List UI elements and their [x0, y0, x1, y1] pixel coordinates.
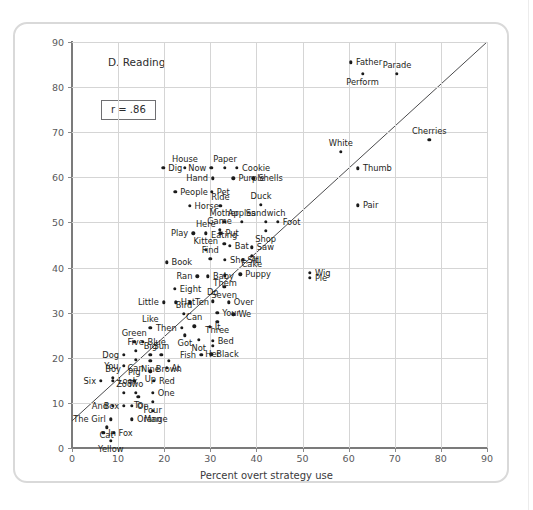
scatter-point-label: We — [238, 310, 251, 318]
x-tick-label: 90 — [481, 453, 493, 464]
y-tick-label: 70 — [52, 127, 64, 138]
x-tick-label: 0 — [69, 453, 75, 464]
x-tick-mark — [210, 448, 211, 452]
x-tick-mark — [441, 448, 442, 452]
scatter-point-label: Dig — [168, 164, 182, 172]
scatter-point-label: Little — [138, 298, 159, 306]
scatter-point-label: Cookie — [242, 164, 270, 172]
x-tick-mark — [395, 448, 396, 452]
scatter-point-label: Eight — [180, 285, 201, 293]
y-tick-mark — [68, 448, 72, 449]
scatter-point-label: Play — [171, 229, 188, 237]
scatter-point-label: Foot — [283, 217, 301, 225]
scatter-point-label: Duck — [251, 192, 272, 200]
scatter-point-label: Over — [234, 298, 254, 306]
scatter-point-label: Hand — [186, 174, 208, 182]
scatter-point-label: Bat — [235, 242, 249, 250]
y-tick-label: 20 — [52, 352, 64, 363]
y-tick-label: 30 — [52, 307, 64, 318]
scatter-point-label: Do — [207, 288, 218, 296]
scatter-point-label: Sandwich — [246, 208, 286, 216]
scatter-point-label: One — [158, 389, 175, 397]
y-gridline — [72, 87, 487, 88]
scatter-plot-area: 01020304050607080900102030405060708090Fa… — [72, 42, 487, 448]
x-tick-label: 40 — [250, 453, 262, 464]
scatter-point-label: Ride — [211, 192, 229, 200]
x-tick-label: 80 — [435, 453, 447, 464]
scatter-point-label: It — [215, 322, 221, 330]
scatter-point-label: People — [180, 188, 208, 196]
x-tick-label: 20 — [158, 453, 170, 464]
x-tick-mark — [72, 448, 73, 452]
scatter-point-label: Ran — [176, 272, 192, 280]
x-tick-mark — [164, 448, 165, 452]
y-tick-label: 60 — [52, 172, 64, 183]
x-gridline — [395, 42, 396, 448]
y-gridline — [72, 42, 487, 43]
scatter-point-label: Five — [127, 338, 144, 346]
y-tick-label: 80 — [52, 82, 64, 93]
scatter-point-label: Sit — [248, 256, 259, 264]
scatter-point-label: Perform — [346, 78, 379, 86]
page-right-rule — [528, 0, 529, 510]
scatter-point-label: Like — [142, 314, 159, 322]
y-tick-mark — [68, 132, 72, 133]
scatter-point-label: Can — [186, 313, 202, 321]
scatter-point-label: Shells — [258, 174, 283, 182]
y-gridline — [72, 268, 487, 269]
x-tick-label: 50 — [297, 453, 309, 464]
scatter-point-label: Fox — [119, 429, 133, 437]
x-axis-label: Percent overt strategy use — [0, 470, 533, 481]
y-tick-label: 90 — [52, 37, 64, 48]
x-tick-label: 30 — [204, 453, 216, 464]
x-gridline — [303, 42, 304, 448]
x-tick-label: 60 — [343, 453, 355, 464]
scatter-point-label: Red — [159, 377, 175, 385]
scatter-point-label: House — [172, 155, 198, 163]
scatter-point-label: Bird — [176, 300, 193, 308]
y-tick-mark — [68, 222, 72, 223]
scatter-point-label: Six — [84, 377, 96, 385]
x-gridline — [487, 42, 488, 448]
scatter-point-label: At — [172, 364, 181, 372]
x-tick-mark — [349, 448, 350, 452]
scatter-point-label: Find — [202, 245, 219, 253]
y-tick-mark — [68, 268, 72, 269]
y-tick-label: 50 — [52, 217, 64, 228]
scatter-point-label: Book — [172, 258, 193, 266]
scatter-point-label: Boy — [105, 365, 121, 373]
y-tick-mark — [68, 403, 72, 404]
scatter-point-label: Dog — [102, 351, 119, 359]
scatter-point-label: Sun — [154, 341, 170, 349]
y-tick-label: 40 — [52, 262, 64, 273]
y-tick-mark — [68, 358, 72, 359]
x-gridline — [441, 42, 442, 448]
figure-page: D. Reading r = .86 Percent overt strateg… — [0, 0, 533, 510]
x-tick-label: 10 — [112, 453, 124, 464]
scatter-point-label: Now — [188, 164, 206, 172]
scatter-point-label: Yellow — [98, 445, 124, 453]
scatter-point-label: Box — [104, 401, 119, 409]
y-tick-label: 0 — [58, 443, 64, 454]
y-tick-mark — [68, 42, 72, 43]
scatter-point-label: Bed — [218, 336, 234, 344]
scatter-point-label: Pig — [128, 367, 140, 375]
scatter-point-label: Pie — [315, 274, 327, 282]
y-gridline — [72, 313, 487, 314]
scatter-point-label: Then — [156, 323, 177, 331]
scatter-point-label: Thumb — [363, 164, 392, 172]
y-tick-label: 10 — [52, 397, 64, 408]
scatter-point-label: Pair — [363, 201, 378, 209]
scatter-point-label: The Girl — [73, 415, 106, 423]
x-gridline — [349, 42, 350, 448]
scatter-point-label: White — [329, 139, 353, 147]
y-tick-mark — [68, 177, 72, 178]
scatter-point-label: Cherries — [412, 127, 447, 135]
scatter-point-label: Paper — [213, 155, 237, 163]
scatter-point-label: Fish — [180, 350, 196, 358]
scatter-point-label: Parade — [383, 60, 412, 68]
scatter-point-label: Game — [207, 216, 232, 224]
scatter-point-label: Puppy — [245, 270, 271, 278]
scatter-point-label: Got — [178, 339, 193, 347]
x-tick-mark — [487, 448, 488, 452]
